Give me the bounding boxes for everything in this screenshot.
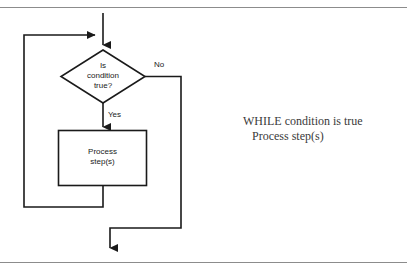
- process-node-label: Process step(s): [62, 147, 143, 167]
- decision-node-label: Is condition true?: [63, 61, 143, 91]
- pseudocode-block: WHILE condition is true Process step(s): [243, 114, 403, 144]
- pseudocode-line-while: WHILE condition is true: [243, 114, 403, 129]
- figure-canvas: Is condition true? Process step(s) No Ye…: [0, 0, 407, 275]
- pseudocode-line-process: Process step(s): [243, 129, 403, 144]
- no-branch-label: No: [154, 60, 164, 69]
- yes-branch-label: Yes: [108, 110, 121, 119]
